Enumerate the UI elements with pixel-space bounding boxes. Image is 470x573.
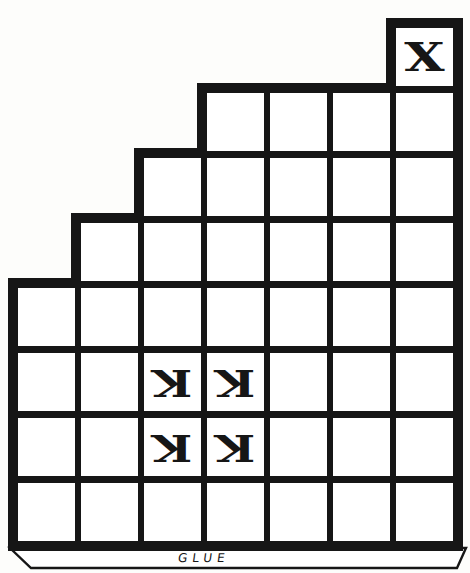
glue-tab-shape (10, 548, 466, 568)
grid-cell (396, 158, 453, 216)
grid-cell (333, 418, 390, 476)
grid-cell (396, 93, 453, 151)
grid-cell (144, 288, 201, 346)
grid-cell (207, 158, 264, 216)
glue-label: GLUE (177, 551, 231, 565)
grid-row-3 (144, 158, 453, 216)
grid-cell (81, 353, 138, 411)
k-mark-upside-down: K (215, 364, 255, 401)
grid-row-4 (81, 223, 453, 281)
grid-cell (270, 288, 327, 346)
grid-cell (270, 483, 327, 541)
grid-cell (207, 223, 264, 281)
grid-cell (18, 288, 75, 346)
grid-cell (333, 353, 390, 411)
grid-cell (207, 93, 264, 151)
k-mark-upside-down: K (152, 429, 192, 466)
x-cell: X (396, 28, 453, 86)
k-cell: K (207, 353, 264, 411)
grid-cell (396, 288, 453, 346)
grid-cell (396, 353, 453, 411)
grid-cell (333, 223, 390, 281)
k-cell: K (207, 418, 264, 476)
grid-cell (81, 223, 138, 281)
grid-cell (81, 288, 138, 346)
grid-cell (144, 483, 201, 541)
grid-cell (270, 418, 327, 476)
grid-cell (333, 288, 390, 346)
grid-cell (81, 418, 138, 476)
k-mark-upside-down: K (152, 364, 192, 401)
k-cell: K (144, 353, 201, 411)
grid-cell (270, 158, 327, 216)
grid-cell (144, 158, 201, 216)
grid-row-1: X (396, 28, 453, 86)
grid-cell (270, 93, 327, 151)
grid-cell (207, 288, 264, 346)
k-mark-upside-down: K (215, 429, 255, 466)
grid-row-7: K K (18, 418, 453, 476)
grid-row-6: K K (18, 353, 453, 411)
grid-cell (333, 483, 390, 541)
grid-cell (207, 483, 264, 541)
grid-row-5 (18, 288, 453, 346)
grid-row-8 (18, 483, 453, 541)
grid-cell (333, 93, 390, 151)
grid-cell (81, 483, 138, 541)
grid-cell (18, 483, 75, 541)
grid-cell (396, 223, 453, 281)
grid-cell (270, 353, 327, 411)
x-mark: X (404, 37, 444, 77)
grid-cell (333, 158, 390, 216)
grid-cell (18, 418, 75, 476)
papercraft-sheet: X K (0, 0, 470, 573)
grid-cell (144, 223, 201, 281)
k-cell: K (144, 418, 201, 476)
grid-row-2 (207, 93, 453, 151)
grid-cell (396, 483, 453, 541)
grid-cell (396, 418, 453, 476)
grid-cell (18, 353, 75, 411)
grid-cell (270, 223, 327, 281)
